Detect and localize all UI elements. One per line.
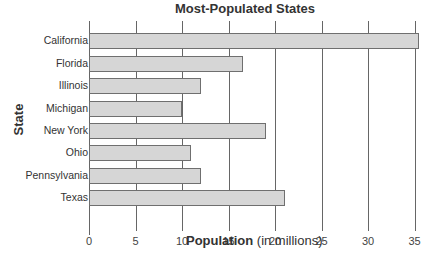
gridline (368, 21, 369, 231)
bar-california (89, 33, 419, 49)
x-tick-label: 30 (358, 235, 378, 247)
x-tick-label: 0 (79, 235, 99, 247)
category-label: Ohio (0, 146, 88, 158)
category-label: Pennsylvania (0, 169, 88, 181)
bar-new-york (89, 123, 266, 139)
x-axis-label: Population (in millions) (186, 233, 323, 248)
category-label: Florida (0, 57, 88, 69)
gridline (322, 21, 323, 231)
category-label: Michigan (0, 102, 88, 114)
category-label: California (0, 34, 88, 46)
bar-michigan (89, 101, 182, 117)
x-tick-label: 35 (405, 235, 424, 247)
gridline (415, 21, 416, 231)
x-tick-label: 5 (126, 235, 146, 247)
bar-illinois (89, 78, 201, 94)
bar-texas (89, 190, 285, 206)
bar-ohio (89, 145, 191, 161)
category-label: New York (0, 124, 88, 136)
category-label: Texas (0, 191, 88, 203)
category-label: Illinois (0, 79, 88, 91)
bar-pennsylvania (89, 168, 201, 184)
chart-title: Most-Populated States (150, 1, 340, 16)
plot-area: California Florida Illinois Michigan New… (89, 21, 424, 231)
bar-florida (89, 56, 243, 72)
